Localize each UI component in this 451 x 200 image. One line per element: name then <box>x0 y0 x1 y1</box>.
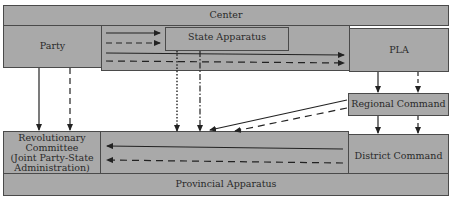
arrow-regional-rc-solid <box>210 100 347 130</box>
arrow-party-pla-solid <box>106 53 344 55</box>
arrow-district-rc-solid <box>107 146 343 149</box>
arrow-party-pla-dashed <box>106 61 344 63</box>
arrow-regional-rc-dashed <box>235 108 347 131</box>
arrows-layer <box>0 0 451 200</box>
arrow-district-rc-dashed <box>107 160 343 163</box>
